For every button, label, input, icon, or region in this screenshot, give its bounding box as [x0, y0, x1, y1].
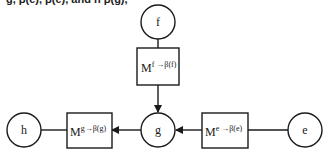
message-g-sup: g→β(g): [81, 124, 107, 133]
node-f-label: f: [156, 15, 160, 29]
message-e-base: M: [205, 125, 216, 139]
factor-graph-diagram: f Mf →β(f) g h Mg→β(g) Me →β(e) e: [0, 0, 324, 152]
message-box-e-to-g: Me →β(e): [202, 113, 248, 148]
node-g: g: [141, 113, 175, 147]
node-e-label: e: [302, 123, 307, 137]
message-f-sup: f →β(f): [152, 60, 177, 69]
node-h: h: [7, 113, 41, 147]
message-box-g-to-h: Mg→β(g): [67, 113, 112, 148]
message-box-f-to-g: Mf →β(f): [137, 48, 179, 85]
message-g-base: M: [70, 125, 81, 139]
node-g-label: g: [155, 123, 161, 137]
message-f-base: M: [141, 61, 152, 75]
node-e: e: [288, 113, 322, 147]
node-h-label: h: [21, 123, 27, 137]
node-f: f: [141, 5, 175, 39]
message-e-sup: e →β(e): [216, 124, 243, 133]
